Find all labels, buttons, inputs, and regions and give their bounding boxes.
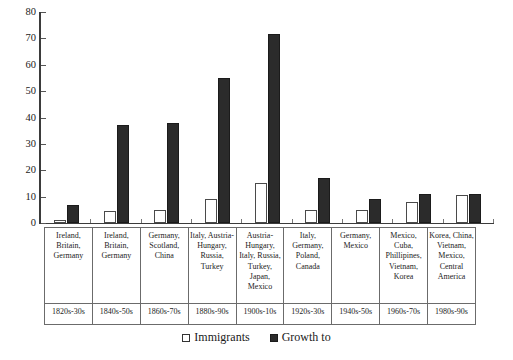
- immigration-bar-chart: 01020304050607080 Ireland, Britain, Germ…: [0, 0, 513, 360]
- bar-growth-1980s-90s: [469, 194, 481, 223]
- y-tick-mark-0: [41, 223, 46, 224]
- bar-immigrants-1900s-10s: [255, 183, 267, 223]
- decade-cell-1980s-90s: 1980s-90s: [428, 304, 476, 325]
- bar-growth-1900s-10s: [268, 34, 280, 223]
- origins-cell-1840s-50s: Ireland, Britain, Germany: [92, 228, 140, 304]
- origins-cell-1940s-50s: Germany, Mexico: [332, 228, 380, 304]
- legend-item-growth-to: Growth to: [270, 330, 331, 345]
- x-tick-mark-1980s-90s: [493, 219, 494, 223]
- legend-label: Growth to: [282, 330, 331, 345]
- decade-cell-1840s-50s: 1840s-50s: [92, 304, 140, 325]
- origins-cell-1820s-30s: Ireland, Britain, Germany: [45, 228, 93, 304]
- bar-immigrants-1820s-30s: [54, 220, 66, 223]
- bar-group-1900s-10s: [242, 12, 292, 223]
- bar-growth-1860s-70s: [167, 123, 179, 223]
- y-tick-mark-50: [41, 91, 46, 92]
- x-axis-line: [39, 223, 494, 224]
- light-square-icon: [182, 334, 190, 342]
- y-tick-label-60: 60: [26, 60, 37, 70]
- bar-group-1820s-30s: [41, 12, 91, 223]
- y-tick-label-50: 50: [26, 86, 37, 96]
- bar-group-1940s-50s: [343, 12, 393, 223]
- y-tick-label-10: 10: [26, 192, 37, 202]
- origins-cell-1860s-70s: Germany, Scotland, China: [140, 228, 188, 304]
- bar-immigrants-1920s-30s: [305, 210, 317, 223]
- bar-immigrants-1980s-90s: [456, 195, 468, 223]
- bar-immigrants-1880s-90s: [205, 199, 217, 223]
- y-tick-label-30: 30: [26, 139, 37, 149]
- bar-growth-1920s-30s: [318, 178, 330, 223]
- plot-area: 01020304050607080: [18, 12, 496, 227]
- bar-group-1920s-30s: [293, 12, 343, 223]
- bar-group-1980s-90s: [444, 12, 494, 223]
- y-tick-mark-80: [41, 12, 46, 13]
- bar-immigrants-1860s-70s: [154, 210, 166, 223]
- bar-growth-1960s-70s: [419, 194, 431, 223]
- decade-cell-1920s-30s: 1920s-30s: [284, 304, 332, 325]
- y-tick-label-0: 0: [31, 218, 36, 228]
- bar-group-1960s-70s: [393, 12, 443, 223]
- bar-group-1860s-70s: [142, 12, 192, 223]
- legend-item-immigrants: Immigrants: [182, 330, 249, 345]
- y-tick-mark-30: [41, 144, 46, 145]
- y-tick-label-40: 40: [26, 113, 37, 123]
- y-tick-mark-70: [41, 38, 46, 39]
- bar-growth-1840s-50s: [117, 125, 129, 223]
- origins-cell-1980s-90s: Korea, China, Vietnam, Mexico, Central A…: [428, 228, 476, 304]
- bar-immigrants-1840s-50s: [104, 211, 116, 223]
- bar-groups-container: [41, 12, 494, 223]
- y-axis-tick-labels: 01020304050607080: [18, 12, 38, 224]
- decade-cell-1860s-70s: 1860s-70s: [140, 304, 188, 325]
- y-tick-label-80: 80: [26, 7, 37, 17]
- decade-cell-1960s-70s: 1960s-70s: [380, 304, 428, 325]
- origins-cell-1880s-90s: Italy, Austria-Hungary, Russia, Turkey: [188, 228, 236, 304]
- chart-legend: ImmigrantsGrowth to: [0, 330, 513, 345]
- y-tick-mark-20: [41, 170, 46, 171]
- y-tick-mark-10: [41, 197, 46, 198]
- y-tick-label-20: 20: [26, 165, 37, 175]
- decade-cell-1940s-50s: 1940s-50s: [332, 304, 380, 325]
- origins-cell-1900s-10s: Austria-Hungary, Italy, Russia, Turkey, …: [236, 228, 284, 304]
- decade-cell-1880s-90s: 1880s-90s: [188, 304, 236, 325]
- bar-growth-1820s-30s: [67, 205, 79, 223]
- table-row-origins: Ireland, Britain, GermanyIreland, Britai…: [45, 228, 476, 304]
- bar-group-1880s-90s: [192, 12, 242, 223]
- bar-growth-1880s-90s: [218, 78, 230, 223]
- bar-immigrants-1960s-70s: [406, 202, 418, 223]
- y-tick-label-70: 70: [26, 33, 37, 43]
- legend-label: Immigrants: [194, 330, 249, 345]
- bar-group-1840s-50s: [91, 12, 141, 223]
- bar-immigrants-1940s-50s: [356, 210, 368, 223]
- decade-cell-1900s-10s: 1900s-10s: [236, 304, 284, 325]
- origins-table: Ireland, Britain, GermanyIreland, Britai…: [44, 227, 476, 320]
- bar-growth-1940s-50s: [369, 199, 381, 223]
- decade-cell-1820s-30s: 1820s-30s: [45, 304, 93, 325]
- origins-cell-1920s-30s: Italy, Germany, Poland, Canada: [284, 228, 332, 304]
- dark-square-icon: [270, 334, 278, 342]
- y-tick-mark-40: [41, 118, 46, 119]
- y-tick-mark-60: [41, 65, 46, 66]
- origins-cell-1960s-70s: Mexico, Cuba, Phillipines, Vietnam, Kore…: [380, 228, 428, 304]
- table-row-decades: 1820s-30s1840s-50s1860s-70s1880s-90s1900…: [45, 304, 476, 325]
